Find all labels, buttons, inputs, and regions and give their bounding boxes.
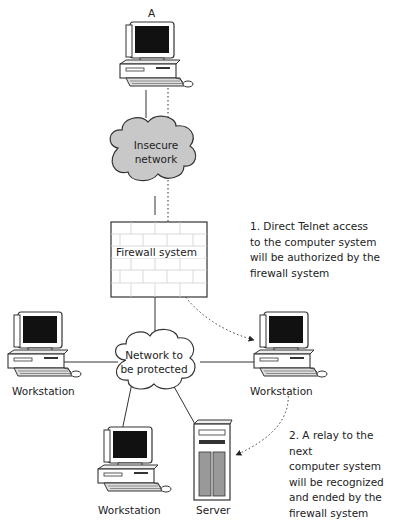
protected-network-label: Network to be protected bbox=[116, 348, 192, 376]
protected-network-label-line1: Network to bbox=[116, 348, 192, 362]
workstation-bottom-icon bbox=[98, 427, 171, 492]
insecure-network-label: Insecure network bbox=[120, 138, 192, 166]
insecure-network-label-line2: network bbox=[120, 152, 192, 166]
workstation-right-icon bbox=[254, 312, 327, 377]
server-label: Server bbox=[196, 503, 230, 517]
computer-a-label: A bbox=[148, 6, 155, 20]
server-icon bbox=[194, 420, 232, 500]
firewall-icon bbox=[111, 222, 207, 297]
workstation-left-icon bbox=[8, 312, 81, 377]
note-relay: 2. A relay to the next computer system w… bbox=[289, 428, 397, 520]
firewall-label: Firewall system bbox=[116, 245, 197, 259]
computer-a-icon bbox=[120, 22, 193, 87]
note-direct-telnet: 1. Direct Telnet access to the computer … bbox=[250, 219, 380, 281]
workstation-left-label: Workstation bbox=[12, 384, 75, 398]
workstation-bottom-label: Workstation bbox=[98, 503, 161, 517]
workstation-right-label: Workstation bbox=[250, 384, 313, 398]
insecure-network-label-line1: Insecure bbox=[120, 138, 192, 152]
protected-network-label-line2: be protected bbox=[116, 362, 192, 376]
